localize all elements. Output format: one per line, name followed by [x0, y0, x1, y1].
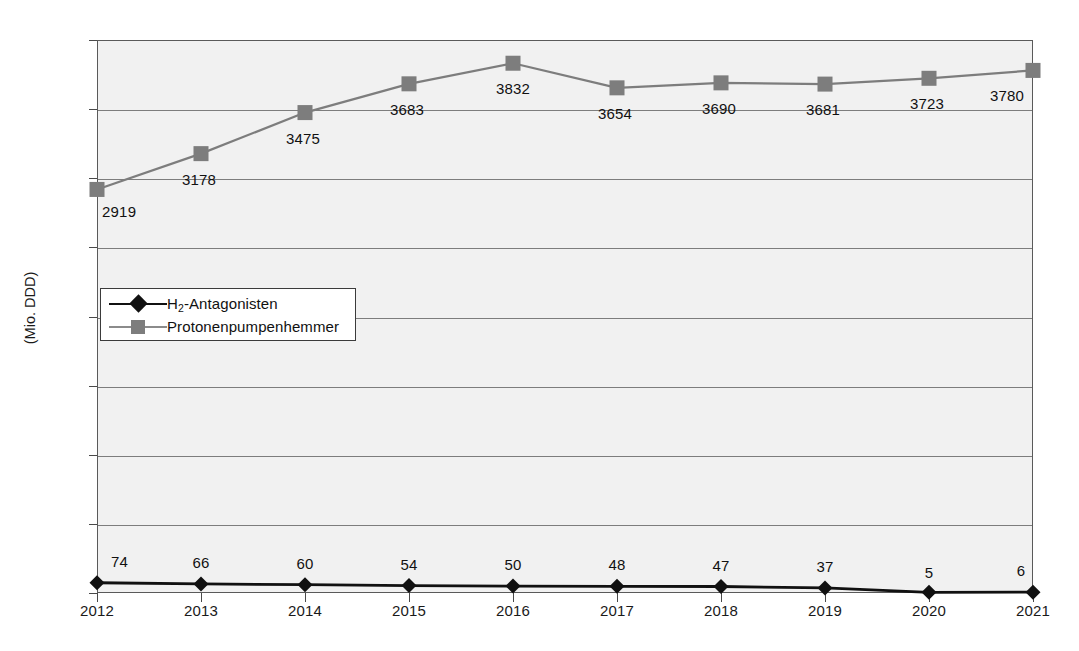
legend-marker-square-icon — [109, 317, 167, 337]
y-axis-tick-mark — [89, 386, 97, 387]
data-label-h2-antagonisten: 50 — [504, 556, 521, 573]
data-label-protonenpumpenhemmer: 3681 — [806, 101, 840, 118]
data-label-h2-antagonisten: 5 — [925, 564, 934, 581]
x-axis-tick-mark — [201, 593, 202, 602]
y-axis-tick-mark — [89, 247, 97, 248]
legend-marker-diamond-icon — [109, 294, 167, 314]
data-label-h2-antagonisten: 54 — [400, 556, 417, 573]
legend-label-protonenpumpenhemmer: Protonenpumpenhemmer — [167, 318, 339, 335]
data-label-h2-antagonisten: 6 — [1017, 562, 1026, 579]
data-label-h2-antagonisten: 37 — [816, 558, 833, 575]
data-label-h2-antagonisten: 47 — [712, 557, 729, 574]
x-axis-tick-label: 2018 — [681, 602, 761, 619]
x-axis-tick-label: 2015 — [369, 602, 449, 619]
data-label-protonenpumpenhemmer: 3780 — [990, 87, 1024, 104]
gridline — [98, 179, 1032, 180]
x-axis-tick-mark — [97, 593, 98, 602]
data-label-h2-antagonisten: 66 — [192, 554, 209, 571]
gridline — [98, 110, 1032, 111]
legend: H2-Antagonisten Protonenpumpenhemmer — [100, 288, 356, 341]
y-axis-tick-mark — [89, 317, 97, 318]
data-label-protonenpumpenhemmer: 2919 — [102, 203, 136, 220]
x-axis-tick-label: 2020 — [889, 602, 969, 619]
x-axis-tick-label: 2021 — [993, 602, 1073, 619]
gridline — [98, 387, 1032, 388]
line-chart: 05001000150020002500300035004000 (Mio. D… — [0, 0, 1079, 651]
gridline — [98, 456, 1032, 457]
x-axis-tick-mark — [1033, 593, 1034, 602]
y-axis-tick-mark — [89, 455, 97, 456]
y-axis-title: (Mio. DDD) — [22, 248, 38, 368]
y-axis-tick-mark — [89, 178, 97, 179]
y-axis-tick-mark — [89, 524, 97, 525]
gridline — [98, 525, 1032, 526]
gridline — [98, 248, 1032, 249]
data-label-h2-antagonisten: 74 — [111, 553, 128, 570]
x-axis-tick-mark — [409, 593, 410, 602]
x-axis-tick-label: 2013 — [161, 602, 241, 619]
data-label-protonenpumpenhemmer: 3690 — [702, 100, 736, 117]
data-label-protonenpumpenhemmer: 3723 — [910, 95, 944, 112]
y-axis-tick-mark — [89, 109, 97, 110]
data-label-protonenpumpenhemmer: 3683 — [390, 101, 424, 118]
legend-item-h2-antagonisten: H2-Antagonisten — [109, 292, 347, 315]
x-axis-tick-mark — [617, 593, 618, 602]
legend-item-protonenpumpenhemmer: Protonenpumpenhemmer — [109, 315, 347, 338]
data-label-protonenpumpenhemmer: 3654 — [598, 105, 632, 122]
data-label-protonenpumpenhemmer: 3475 — [286, 130, 320, 147]
data-label-protonenpumpenhemmer: 3178 — [182, 171, 216, 188]
x-axis-tick-mark — [721, 593, 722, 602]
data-label-h2-antagonisten: 48 — [608, 556, 625, 573]
legend-label-h2-antagonisten: H2-Antagonisten — [167, 295, 278, 312]
data-label-protonenpumpenhemmer: 3832 — [496, 80, 530, 97]
x-axis-tick-mark — [305, 593, 306, 602]
x-axis-tick-label: 2016 — [473, 602, 553, 619]
y-axis-tick-mark — [89, 40, 97, 41]
x-axis-tick-mark — [513, 593, 514, 602]
x-axis-tick-mark — [825, 593, 826, 602]
data-label-h2-antagonisten: 60 — [296, 555, 313, 572]
x-axis-tick-label: 2014 — [265, 602, 345, 619]
x-axis-tick-label: 2012 — [57, 602, 137, 619]
x-axis-tick-label: 2017 — [577, 602, 657, 619]
y-axis-tick-mark — [89, 593, 97, 594]
x-axis-tick-label: 2019 — [785, 602, 865, 619]
x-axis-tick-mark — [929, 593, 930, 602]
